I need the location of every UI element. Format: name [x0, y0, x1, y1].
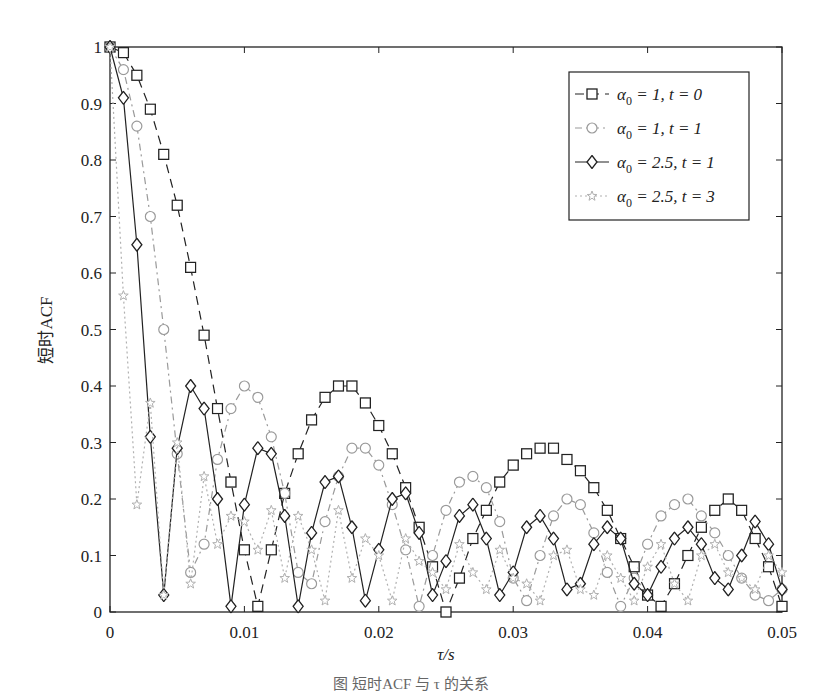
- data-point-star: [213, 539, 223, 548]
- x-axis-label: τ/s: [437, 645, 455, 664]
- data-point-diamond: [239, 498, 249, 511]
- data-point-circle: [481, 483, 491, 493]
- data-point-circle: [602, 567, 612, 577]
- data-point-circle: [347, 443, 357, 453]
- data-point-circle: [441, 505, 451, 515]
- data-point-star: [468, 567, 478, 576]
- data-point-circle: [683, 494, 693, 504]
- y-tick-label: 0.9: [81, 95, 102, 114]
- data-point-diamond: [723, 583, 733, 596]
- data-point-star: [455, 539, 465, 548]
- data-point-square: [589, 483, 599, 493]
- data-point-circle: [145, 212, 155, 222]
- data-point-circle: [239, 381, 249, 391]
- data-point-diamond: [549, 532, 559, 545]
- data-point-circle: [643, 539, 653, 549]
- data-point-circle: [159, 325, 169, 335]
- data-point-square: [468, 534, 478, 544]
- data-point-star: [616, 573, 626, 582]
- y-tick-label: 0: [94, 603, 103, 622]
- data-point-star: [199, 471, 209, 480]
- data-point-diamond: [320, 476, 330, 489]
- data-point-diamond: [656, 560, 666, 573]
- data-point-diamond: [186, 380, 196, 393]
- data-point-diamond: [495, 589, 505, 602]
- data-point-circle: [360, 443, 370, 453]
- data-point-star: [562, 545, 572, 554]
- data-point-square: [374, 421, 384, 431]
- data-point-diamond: [132, 238, 142, 251]
- data-point-square: [723, 494, 733, 504]
- x-tick-label: 0.03: [498, 623, 528, 642]
- data-point-star: [656, 539, 666, 548]
- data-point-diamond: [333, 470, 343, 483]
- data-point-circle: [226, 404, 236, 414]
- x-tick-label: 0.05: [767, 623, 797, 642]
- data-point-diamond: [777, 583, 787, 596]
- data-point-circle: [118, 65, 128, 75]
- data-point-diamond: [468, 498, 478, 511]
- data-point-square: [186, 262, 196, 272]
- data-point-diamond: [737, 549, 747, 562]
- legend: α0 = 1, t = 0α0 = 1, t = 1α0 = 2.5, t = …: [569, 72, 749, 220]
- data-point-square: [750, 534, 760, 544]
- data-point-star: [602, 551, 612, 560]
- data-point-diamond: [710, 572, 720, 585]
- data-point-circle: [589, 528, 599, 538]
- y-tick-label: 0.4: [81, 377, 103, 396]
- data-point-square: [549, 443, 559, 453]
- data-point-circle: [616, 601, 626, 611]
- data-point-square: [696, 522, 706, 532]
- y-tick-label: 0.7: [81, 208, 103, 227]
- data-point-square: [145, 104, 155, 114]
- data-point-square: [199, 330, 209, 340]
- data-point-circle: [414, 601, 424, 611]
- data-point-star: [132, 500, 142, 509]
- data-point-circle: [562, 494, 572, 504]
- data-point-square: [266, 545, 276, 555]
- data-point-square: [481, 505, 491, 515]
- data-point-square: [293, 449, 303, 459]
- data-point-diamond: [253, 442, 263, 455]
- data-point-square: [347, 381, 357, 391]
- y-tick-label: 0.6: [81, 264, 102, 283]
- data-point-circle: [428, 551, 438, 561]
- data-point-circle: [723, 551, 733, 561]
- legend-marker-circle: [587, 123, 597, 133]
- data-point-square: [159, 149, 169, 159]
- data-point-circle: [320, 517, 330, 527]
- data-point-square: [132, 70, 142, 80]
- y-axis-label: 短时ACF: [37, 296, 56, 363]
- data-point-square: [535, 443, 545, 453]
- x-tick-label: 0.01: [230, 623, 260, 642]
- data-point-diamond: [669, 532, 679, 545]
- data-point-circle: [669, 500, 679, 510]
- data-point-square: [441, 607, 451, 617]
- data-point-diamond: [481, 532, 491, 545]
- data-point-square: [226, 477, 236, 487]
- data-point-diamond: [428, 589, 438, 602]
- data-point-circle: [656, 511, 666, 521]
- data-point-star: [643, 562, 653, 571]
- data-point-diamond: [307, 526, 317, 539]
- data-point-diamond: [522, 521, 532, 534]
- data-point-circle: [710, 528, 720, 538]
- data-point-circle: [495, 517, 505, 527]
- data-point-circle: [199, 539, 209, 549]
- data-point-circle: [186, 567, 196, 577]
- data-point-circle: [307, 579, 317, 589]
- data-point-star: [723, 567, 733, 576]
- data-point-star: [347, 573, 357, 582]
- data-point-square: [454, 573, 464, 583]
- data-point-star: [266, 505, 276, 514]
- data-point-diamond: [764, 538, 774, 551]
- data-point-square: [172, 200, 182, 210]
- data-point-square: [508, 460, 518, 470]
- data-point-circle: [522, 596, 532, 606]
- data-point-diamond: [226, 600, 236, 613]
- data-point-circle: [293, 567, 303, 577]
- data-point-star: [240, 517, 250, 526]
- data-point-square: [683, 551, 693, 561]
- data-point-diamond: [441, 555, 451, 568]
- data-point-square: [213, 404, 223, 414]
